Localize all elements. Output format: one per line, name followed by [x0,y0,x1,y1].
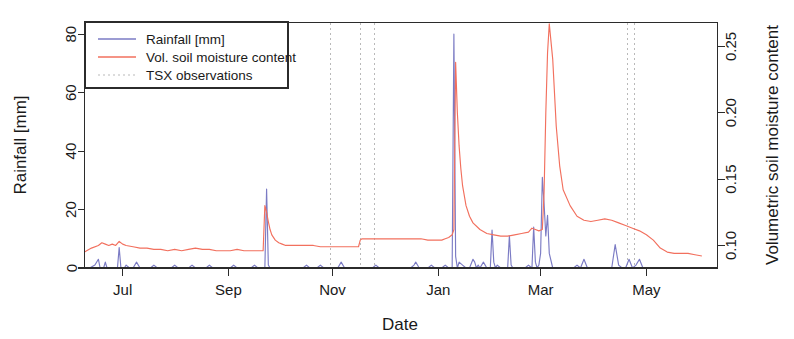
y-axis-right-title: Volumetric soil moisture content [763,25,782,265]
y-tick-label-left: 60 [63,84,80,101]
x-tick-label: Mar [528,281,554,298]
y-tick-label-left: 40 [63,143,80,160]
x-tick-label: Nov [319,281,346,298]
rainfall-soil-moisture-chart: 020406080 0.100.150.200.25 JulSepNovJanM… [0,0,794,339]
y-tick-label-right: 0.20 [723,98,740,127]
legend-label: TSX observations [146,68,253,83]
y-tick-label-right: 0.25 [723,32,740,61]
legend-label: Rainfall [mm] [146,32,225,47]
x-tick-label: Jan [426,281,450,298]
chart-legend: Rainfall [mm]Vol. soil moisture contentT… [85,22,296,88]
x-tick-label: May [632,281,661,298]
chart-figure: 020406080 0.100.150.200.25 JulSepNovJanM… [0,0,794,339]
x-tick-label: Jul [113,281,132,298]
x-axis-title: Date [382,315,418,334]
y-axis-left-title: Rainfall [mm] [11,95,30,194]
x-tick-label: Sep [215,281,242,298]
y-tick-label-right: 0.10 [723,231,740,260]
y-tick-label-left: 0 [63,264,80,272]
y-tick-label-left: 20 [63,201,80,218]
y-tick-label-left: 80 [63,26,80,43]
legend-label: Vol. soil moisture content [146,50,296,65]
y-tick-label-right: 0.15 [723,164,740,193]
